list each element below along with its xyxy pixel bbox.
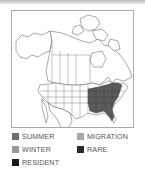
alaska-outline bbox=[16, 31, 52, 59]
resident-swatch-icon bbox=[12, 159, 19, 166]
migration-swatch-icon bbox=[77, 133, 84, 140]
summer-swatch-icon bbox=[12, 133, 19, 140]
legend-label: SUMMER bbox=[22, 132, 55, 141]
winter-swatch-icon bbox=[12, 146, 19, 153]
legend-label: RESIDENT bbox=[22, 158, 59, 167]
legend-item-migration: MIGRATION bbox=[77, 131, 128, 141]
legend-item-summer: SUMMER bbox=[12, 131, 55, 141]
legend-label: MIGRATION bbox=[87, 132, 128, 141]
top-bar bbox=[0, 0, 145, 4]
baja-california bbox=[42, 99, 48, 123]
canada-outline bbox=[46, 31, 132, 85]
legend-item-resident: RESIDENT bbox=[12, 157, 59, 167]
arctic-island bbox=[92, 29, 108, 41]
legend-label: WINTER bbox=[22, 145, 51, 154]
legend-item-rare: RARE bbox=[77, 144, 107, 154]
legend-label: RARE bbox=[87, 145, 107, 154]
north-america-map bbox=[12, 11, 134, 128]
arctic-island bbox=[80, 15, 100, 31]
rare-swatch-icon bbox=[77, 146, 84, 153]
range-map bbox=[11, 10, 134, 128]
legend-item-winter: WINTER bbox=[12, 144, 51, 154]
